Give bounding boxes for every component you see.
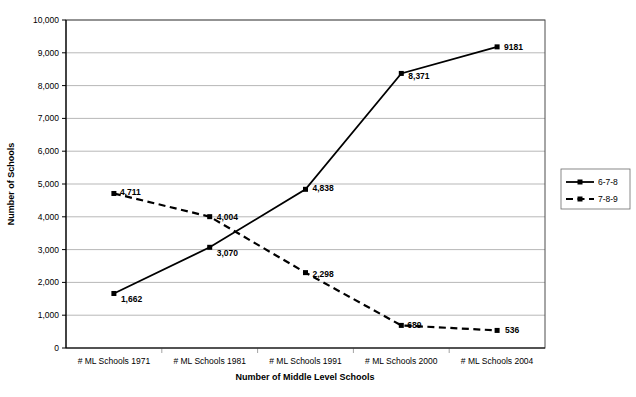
data-point-marker[interactable] <box>495 44 500 49</box>
x-axis-category-label: # ML Schools 1981 <box>173 356 246 366</box>
data-point-marker[interactable] <box>111 291 116 296</box>
data-point-label: 2,298 <box>313 269 335 279</box>
y-axis-tick-label: 10,000 <box>33 15 59 25</box>
x-axis-category-label: # ML Schools 1991 <box>269 356 342 366</box>
line-chart-canvas: 01,0002,0003,0004,0005,0006,0007,0008,00… <box>0 0 636 397</box>
y-axis-tick-label: 1,000 <box>38 310 60 320</box>
y-axis-tick-label: 7,000 <box>38 113 60 123</box>
data-point-label: 4,838 <box>313 183 335 193</box>
chart-legend[interactable]: 6-7-87-8-9 <box>561 169 630 209</box>
x-axis-category-labels: # ML Schools 1971# ML Schools 1981# ML S… <box>78 356 534 366</box>
data-point-label: 689 <box>407 320 421 330</box>
chart-figure: 01,0002,0003,0004,0005,0006,0007,0008,00… <box>0 0 636 397</box>
data-point-marker[interactable] <box>303 187 308 192</box>
data-point-label: 4,004 <box>217 212 239 222</box>
data-point-marker[interactable] <box>495 328 500 333</box>
y-axis-tick-label: 5,000 <box>38 179 60 189</box>
x-axis-category-label: # ML Schools 2000 <box>365 356 438 366</box>
legend-label-7-8-9[interactable]: 7-8-9 <box>598 194 618 204</box>
legend-box <box>561 169 630 209</box>
legend-label-6-7-8[interactable]: 6-7-8 <box>598 177 618 187</box>
legend-marker-7-8-9 <box>578 197 583 202</box>
y-axis-tick-label: 0 <box>54 343 59 353</box>
y-axis-tick-label: 8,000 <box>38 81 60 91</box>
chart-background <box>0 0 636 397</box>
data-point-label: 536 <box>505 325 519 335</box>
data-point-marker[interactable] <box>111 191 116 196</box>
legend-marker-6-7-8 <box>578 180 583 185</box>
y-axis-tick-label: 6,000 <box>38 146 60 156</box>
data-point-marker[interactable] <box>399 71 404 76</box>
x-axis-category-label: # ML Schools 1971 <box>78 356 151 366</box>
y-axis-tick-label: 9,000 <box>38 48 60 58</box>
data-point-label: 4,711 <box>120 187 141 197</box>
x-axis-title: Number of Middle Level Schools <box>235 372 374 382</box>
data-point-marker[interactable] <box>207 245 212 250</box>
data-point-label: 9181 <box>504 42 523 52</box>
data-point-label: 3,070 <box>217 248 239 258</box>
data-point-label: 8,371 <box>408 71 430 81</box>
y-axis-title: Number of Schools <box>6 143 16 226</box>
data-point-label: 1,662 <box>121 294 143 304</box>
y-axis-tick-label: 4,000 <box>38 212 60 222</box>
data-point-marker[interactable] <box>399 323 404 328</box>
y-axis-tick-label: 3,000 <box>38 245 60 255</box>
x-axis-category-label: # ML Schools 2004 <box>461 356 534 366</box>
y-axis-tick-label: 2,000 <box>38 277 60 287</box>
data-point-marker[interactable] <box>303 270 308 275</box>
data-point-marker[interactable] <box>207 214 212 219</box>
